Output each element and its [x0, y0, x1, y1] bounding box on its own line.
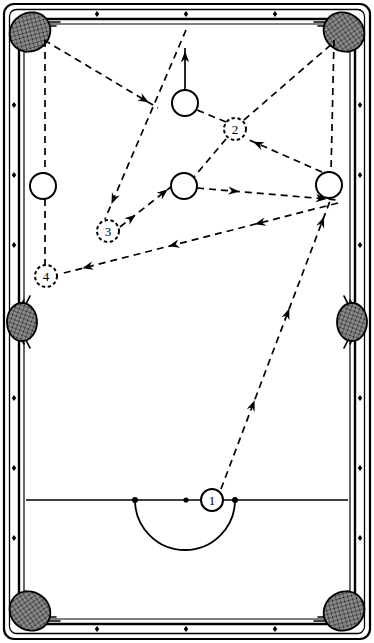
ball-position-2: 2	[224, 118, 246, 140]
cue-ball-position-top	[172, 90, 198, 116]
cue-ball-position-right	[316, 172, 342, 198]
pool-table-diagram: 1234	[0, 0, 374, 643]
pool-table-svg: 1234	[0, 0, 374, 643]
cue-ball-position-center	[171, 173, 197, 199]
ball-position-1: 1	[201, 489, 223, 511]
pocket-net	[337, 303, 367, 341]
ball-outline	[224, 118, 246, 140]
ball-outline	[201, 489, 223, 511]
ball-outline	[35, 265, 57, 287]
pocket-net	[7, 303, 37, 341]
right-side-pocket	[337, 303, 367, 341]
ball-position-4: 4	[35, 265, 57, 287]
ball-outline	[172, 90, 198, 116]
left-side-pocket	[7, 303, 37, 341]
cue-ball-position-left	[30, 173, 56, 199]
d-right-endpoint	[232, 497, 238, 503]
head-spot	[183, 497, 188, 502]
ball-outline	[316, 172, 342, 198]
ball-outline	[30, 173, 56, 199]
ball-outline	[171, 173, 197, 199]
ball-outline	[97, 220, 119, 242]
d-left-endpoint	[132, 497, 138, 503]
ball-position-3: 3	[97, 220, 119, 242]
